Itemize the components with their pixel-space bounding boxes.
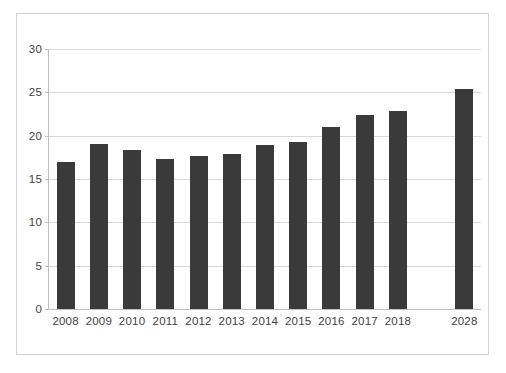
y-axis-tick-mark [45, 49, 49, 50]
bar [90, 144, 108, 309]
bar [156, 159, 174, 309]
bar [289, 142, 307, 309]
y-axis-tick-mark [45, 92, 49, 93]
y-gridline [49, 309, 481, 310]
y-axis-tick-label: 15 [29, 173, 42, 185]
bar [190, 156, 208, 309]
x-axis-category-label: 2018 [385, 315, 411, 327]
bar [356, 115, 374, 309]
bar [57, 162, 75, 309]
x-axis-category-label: 2017 [351, 315, 377, 327]
y-axis-tick-label: 20 [29, 130, 42, 142]
bar [389, 111, 407, 309]
x-axis-category-label: 2013 [219, 315, 245, 327]
y-gridline [49, 49, 481, 50]
y-axis-tick-mark [45, 136, 49, 137]
bar [455, 89, 473, 309]
x-axis-category-label: 2010 [119, 315, 145, 327]
x-axis-category-label: 2009 [86, 315, 112, 327]
y-axis-tick-label: 0 [35, 303, 42, 315]
bar [256, 145, 274, 309]
y-axis-tick-mark [45, 266, 49, 267]
x-axis-category-label: 2008 [52, 315, 78, 327]
y-axis-tick-mark [45, 179, 49, 180]
bar [322, 127, 340, 309]
bar [223, 154, 241, 309]
x-axis-category-label: 2016 [318, 315, 344, 327]
y-axis-tick-label: 5 [35, 260, 42, 272]
chart-card: 0510152025302008200920102011201220132014… [16, 13, 489, 355]
x-axis-category-label: 2015 [285, 315, 311, 327]
x-axis-category-label: 2014 [252, 315, 278, 327]
y-gridline [49, 92, 481, 93]
y-axis-tick-label: 10 [29, 216, 42, 228]
chart-plot-area: 0510152025302008200920102011201220132014… [48, 49, 481, 309]
y-axis-tick-mark [45, 309, 49, 310]
x-axis-category-label: 2012 [185, 315, 211, 327]
x-axis-category-label: 2028 [451, 315, 477, 327]
bar [123, 150, 141, 309]
y-axis-tick-label: 30 [29, 43, 42, 55]
y-axis-tick-label: 25 [29, 86, 42, 98]
y-gridline [49, 136, 481, 137]
y-axis-tick-mark [45, 222, 49, 223]
x-axis-category-label: 2011 [153, 315, 179, 327]
